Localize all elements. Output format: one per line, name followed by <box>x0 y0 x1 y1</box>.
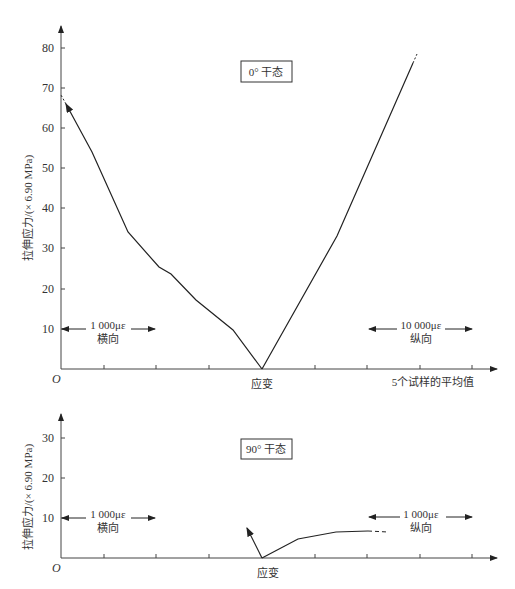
top-ytick-20: 20 <box>42 282 54 296</box>
bottom-curve-longitudinal-dash <box>368 531 388 532</box>
figure: 80 70 60 50 40 30 20 10 O 拉伸应力/(× 6.90 M… <box>0 0 515 589</box>
top-sample-note: 5个试样的平均值 <box>392 375 475 388</box>
bottom-title: 90° 干态 <box>246 443 286 455</box>
bottom-curve-longitudinal <box>262 531 368 558</box>
top-right-annotation-sub: 纵向 <box>410 332 432 345</box>
top-ytick-70: 70 <box>42 81 54 95</box>
top-curve-longitudinal <box>262 63 413 369</box>
top-y-ticks <box>61 48 65 329</box>
top-x-axis-label: 应变 <box>251 377 273 390</box>
top-chart: 80 70 60 50 40 30 20 10 O 拉伸应力/(× 6.90 M… <box>21 26 497 390</box>
bottom-left-annotation: 1 000με <box>90 508 126 520</box>
top-ytick-30: 30 <box>42 241 54 255</box>
top-ytick-50: 50 <box>42 161 54 175</box>
top-curve-longitudinal-dash <box>413 54 417 63</box>
bottom-ytick-10: 10 <box>42 511 54 525</box>
bottom-origin-label: O <box>52 561 61 575</box>
bottom-right-annotation: 1 000με <box>403 508 439 520</box>
top-left-annotation-sub: 横向 <box>97 332 119 345</box>
top-title: 0° 干态 <box>249 66 284 78</box>
bottom-chart: 30 20 10 O 拉伸应力/(× 6.90 MPa) 应变 90° 干态 1… <box>21 414 497 579</box>
bottom-ytick-20: 20 <box>42 471 54 485</box>
bottom-left-annotation-sub: 横向 <box>97 521 119 534</box>
top-ytick-80: 80 <box>42 41 54 55</box>
top-x-ticks <box>104 365 472 369</box>
top-ytick-60: 60 <box>42 121 54 135</box>
bottom-x-ticks <box>104 554 472 558</box>
bottom-ytick-30: 30 <box>42 431 54 445</box>
top-origin-label: O <box>52 372 61 386</box>
bottom-x-axis-label: 应变 <box>257 566 279 579</box>
bottom-right-annotation-sub: 纵向 <box>410 521 432 534</box>
bottom-curve-transverse <box>247 528 262 558</box>
top-ytick-40: 40 <box>42 201 54 215</box>
top-left-annotation: 1 000με <box>90 319 126 331</box>
top-right-annotation: 10 000με <box>401 319 442 331</box>
top-curve-transverse-dash <box>61 95 66 104</box>
bottom-y-ticks <box>61 438 65 518</box>
top-y-axis-label: 拉伸应力/(× 6.90 MPa) <box>21 155 35 261</box>
top-ytick-10: 10 <box>42 322 54 336</box>
bottom-y-axis-label: 拉伸应力/(× 6.90 MPa) <box>21 444 35 550</box>
